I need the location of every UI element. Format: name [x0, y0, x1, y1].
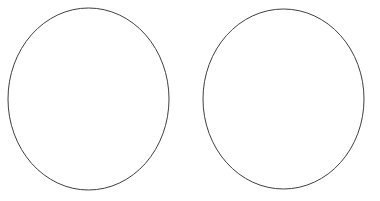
drawing-canvas	[0, 0, 380, 201]
right-circle	[203, 9, 364, 189]
left-circle	[8, 8, 169, 190]
vector-drawing	[0, 0, 380, 201]
